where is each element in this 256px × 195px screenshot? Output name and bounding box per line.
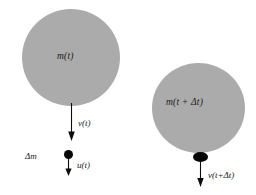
body-mass-label-before: m(t) xyxy=(57,51,74,61)
ejected-mass-dot xyxy=(64,150,73,159)
diagram-canvas: m(t) v(t) Δm u(t) m(t + Δt) v(t+Δt) xyxy=(0,0,256,195)
velocity-label-after: v(t+Δt) xyxy=(208,170,234,180)
ejected-mass-label: Δm xyxy=(25,151,37,161)
ejected-velocity-label: u(t) xyxy=(77,160,90,170)
body-mass-label-after: m(t + Δt) xyxy=(166,97,203,107)
ejected-velocity-arrow xyxy=(61,159,77,179)
body-circle-after xyxy=(152,63,245,153)
velocity-label-before: v(t) xyxy=(78,118,91,128)
velocity-arrow-after xyxy=(193,161,209,189)
